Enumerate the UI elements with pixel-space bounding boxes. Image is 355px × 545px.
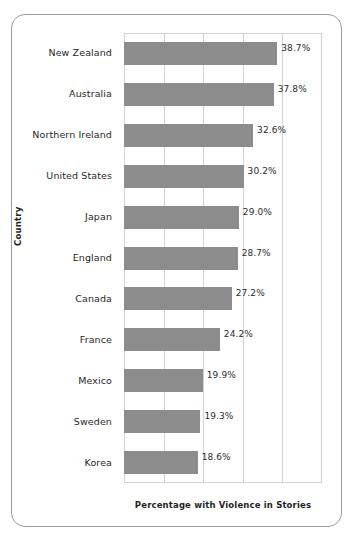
bar-row: 28.7%: [124, 238, 322, 279]
bar-value-label: 19.9%: [207, 370, 236, 380]
bar: [124, 165, 244, 188]
bar-row: 19.9%: [124, 360, 322, 401]
bar-value-label: 24.2%: [224, 329, 253, 339]
chart-figure: 38.7%37.8%32.6%30.2%29.0%28.7%27.2%24.2%…: [0, 0, 355, 545]
bar-row: 29.0%: [124, 197, 322, 238]
bar: [124, 42, 277, 65]
bar: [124, 247, 238, 270]
bar-value-label: 29.0%: [243, 207, 272, 217]
category-label: Canada: [0, 293, 112, 304]
bar: [124, 328, 220, 351]
bar-row: 18.6%: [124, 442, 322, 483]
bar-row: 30.2%: [124, 156, 322, 197]
category-label: United States: [0, 170, 112, 181]
bar-row: 37.8%: [124, 74, 322, 115]
category-label: Australia: [0, 88, 112, 99]
bar-row: 19.3%: [124, 401, 322, 442]
bar-row: 27.2%: [124, 278, 322, 319]
x-axis-title: Percentage with Violence in Stories: [124, 500, 322, 510]
bar: [124, 83, 274, 106]
bar-value-label: 19.3%: [204, 411, 233, 421]
bar: [124, 287, 232, 310]
bar-value-label: 27.2%: [236, 288, 265, 298]
bar: [124, 451, 198, 474]
category-label: New Zealand: [0, 47, 112, 58]
category-label: Northern Ireland: [0, 129, 112, 140]
bar-series: 38.7%37.8%32.6%30.2%29.0%28.7%27.2%24.2%…: [124, 33, 322, 483]
bar-value-label: 18.6%: [202, 452, 231, 462]
category-label: Sweden: [0, 416, 112, 427]
bar-value-label: 32.6%: [257, 125, 286, 135]
bar-row: 32.6%: [124, 115, 322, 156]
bar-value-label: 37.8%: [278, 84, 307, 94]
y-axis-title: Country: [13, 207, 23, 246]
category-axis-labels: New ZealandAustraliaNorthern IrelandUnit…: [0, 33, 118, 483]
bar-value-label: 38.7%: [281, 43, 310, 53]
bar-row: 38.7%: [124, 33, 322, 74]
category-label: Korea: [0, 457, 112, 468]
bar-value-label: 28.7%: [242, 248, 271, 258]
category-label: Mexico: [0, 375, 112, 386]
bar: [124, 124, 253, 147]
bar-row: 24.2%: [124, 319, 322, 360]
bar: [124, 369, 203, 392]
bar-value-label: 30.2%: [248, 166, 277, 176]
category-label: France: [0, 334, 112, 345]
bar: [124, 410, 200, 433]
bar: [124, 206, 239, 229]
category-label: England: [0, 252, 112, 263]
